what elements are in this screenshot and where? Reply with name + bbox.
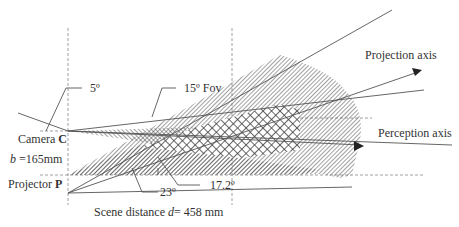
triangulation-diagram: 5º 15º Fov Projection axis Perception ax… <box>0 0 459 227</box>
baseline-label: b =165mm <box>10 153 62 165</box>
projection-axis-label: Projection axis <box>365 49 437 61</box>
scene-distance-label: Scene distance d= 458 mm <box>94 206 223 218</box>
projector-label: Projector P <box>8 178 62 190</box>
projector-angle-label: 23º <box>160 186 176 198</box>
camera-angle-label: 5º <box>90 82 100 94</box>
camera-label: Camera C <box>18 133 67 145</box>
axis-angle-label: 17.2º <box>210 179 235 191</box>
perception-axis-label: Perception axis <box>378 127 452 139</box>
camera-symbol: C <box>58 132 67 146</box>
projection-axis-arrowhead <box>412 68 422 76</box>
fov-label: 15º Fov <box>184 82 221 94</box>
projector-symbol: P <box>55 177 62 191</box>
diagram-canvas <box>0 0 459 227</box>
